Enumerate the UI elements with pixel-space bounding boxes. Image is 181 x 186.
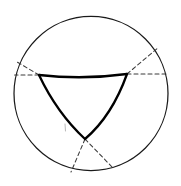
dashed-ray-bottom-right xyxy=(85,139,113,168)
curvilinear-triangle xyxy=(39,74,127,139)
dashed-ray-bottom-left xyxy=(71,139,85,172)
dashed-ray-left-upper xyxy=(16,61,40,75)
triangle-arc-right xyxy=(85,74,127,139)
triangle-arc-left xyxy=(39,75,85,139)
outer-circle xyxy=(14,17,168,171)
faint-tick-mark xyxy=(65,124,66,131)
geometric-figure: Curvilinear triangle inscribed in a circ… xyxy=(0,0,181,186)
dashed-ray-right-upper xyxy=(127,47,159,74)
dashed-ray-group xyxy=(15,47,168,172)
figure-canvas: Curvilinear triangle inscribed in a circ… xyxy=(0,0,181,186)
faint-mark-group xyxy=(65,124,66,131)
triangle-arc-top xyxy=(39,74,127,77)
